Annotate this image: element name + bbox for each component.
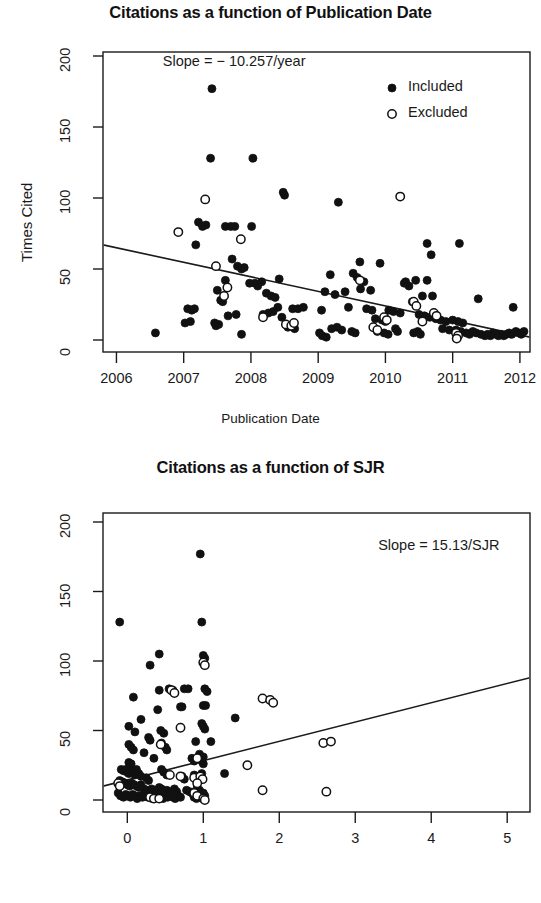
x-tick-label: 2006 [100, 370, 132, 386]
x-tick-label: 4 [427, 830, 435, 846]
legend-label-excluded: Excluded [408, 104, 468, 120]
x-tick-label: 2 [275, 830, 283, 846]
y-tick-label: 150 [57, 119, 73, 143]
y-tick-label: 0 [57, 348, 73, 356]
y-tick-label: 100 [57, 653, 73, 677]
panel-sjr: Citations as a function of SJR SJR Times… [0, 450, 541, 903]
x-tick-label: 0 [123, 830, 131, 846]
y-tick-label: 100 [57, 190, 73, 214]
x-axis-title-publication-date: Publication Date [0, 411, 541, 426]
y-tick-label: 50 [57, 730, 73, 746]
y-tick-label: 50 [57, 269, 73, 285]
x-tick-label: 2008 [235, 370, 267, 386]
y-tick-label: 200 [57, 48, 73, 72]
y-tick-label: 200 [57, 514, 73, 538]
figure-two-panel-scatter: Citations as a function of Publication D… [0, 0, 541, 903]
y-tick-label: 0 [57, 808, 73, 816]
plot-area-sjr [0, 450, 541, 903]
x-tick-label: 2007 [168, 370, 200, 386]
x-tick-label: 2011 [437, 370, 468, 386]
y-tick-label: 150 [57, 583, 73, 607]
slope-annotation: Slope = 15.13/SJR [378, 537, 499, 553]
legend-label-included: Included [408, 78, 463, 94]
x-tick-label: 3 [351, 830, 359, 846]
y-axis-title-publication-date: Times Cited [18, 183, 35, 262]
x-tick-label: 2012 [504, 370, 536, 386]
x-tick-label: 1 [199, 830, 207, 846]
x-tick-label: 2009 [302, 370, 334, 386]
x-tick-label: 5 [503, 830, 511, 846]
slope-annotation: Slope = − 10.257/year [163, 53, 306, 69]
panel-publication-date: Citations as a function of Publication D… [0, 0, 541, 450]
x-tick-label: 2010 [369, 370, 401, 386]
